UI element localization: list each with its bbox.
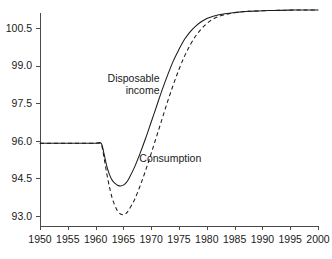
chart-container: 93.094.596.097.599.0100.5195019551960196… <box>0 0 332 259</box>
axes <box>40 13 318 226</box>
y-axis-tick-label: 96.0 <box>12 135 33 147</box>
x-axis-tick-label: 1955 <box>56 233 80 245</box>
annotation-line: Disposable <box>108 72 160 84</box>
series-line-consumption <box>40 10 318 215</box>
y-axis-tick-label: 100.5 <box>6 22 32 34</box>
x-axis-tick-label: 1965 <box>112 233 136 245</box>
x-axis-tick-label: 2000 <box>306 233 330 245</box>
y-axis-tick-label: 94.5 <box>12 172 33 184</box>
x-axis-tick-label: 1975 <box>167 233 191 245</box>
x-axis-tick-label: 1950 <box>28 233 52 245</box>
annotation-label: Consumption <box>139 152 201 164</box>
series-annotations: DisposableincomeConsumption <box>108 72 202 164</box>
tick-marks <box>36 29 319 231</box>
x-axis-tick-label: 1985 <box>223 233 247 245</box>
annotation-line: income <box>126 84 160 96</box>
axis-lines <box>40 13 318 226</box>
annotation-label: Disposableincome <box>108 72 160 96</box>
tick-labels: 93.094.596.097.599.0100.5195019551960196… <box>6 22 330 245</box>
y-axis-tick-label: 97.5 <box>12 97 33 109</box>
x-axis-tick-label: 1980 <box>195 233 219 245</box>
x-axis-tick-label: 1970 <box>140 233 164 245</box>
chart-canvas: 93.094.596.097.599.0100.5195019551960196… <box>0 0 332 259</box>
x-axis-tick-label: 1990 <box>251 233 275 245</box>
y-axis-tick-label: 99.0 <box>12 59 33 71</box>
annotation-line: Consumption <box>139 152 201 164</box>
y-axis-tick-label: 93.0 <box>12 210 33 222</box>
x-axis-tick-label: 1995 <box>279 233 303 245</box>
data-series <box>40 10 318 215</box>
x-axis-tick-label: 1960 <box>84 233 108 245</box>
